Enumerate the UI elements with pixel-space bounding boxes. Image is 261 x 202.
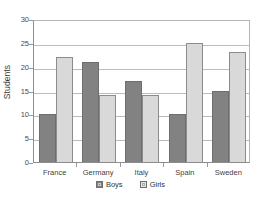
y-axis-tick-mark (29, 115, 33, 116)
y-axis-tick-label: 30 (12, 16, 29, 24)
legend-label: Boys (106, 181, 123, 189)
x-axis-tick-mark (163, 163, 164, 167)
bar-group (208, 21, 251, 162)
y-axis-tick-mark (29, 68, 33, 69)
bar-italy-boys (125, 81, 142, 162)
bar-chart: Students 051015202530 FranceGermanyItaly… (0, 0, 261, 202)
y-axis-tick-label: 15 (12, 88, 29, 96)
bar-france-boys (39, 114, 56, 162)
y-axis-title-text: Students (2, 64, 12, 98)
bar-group (34, 21, 77, 162)
plot-area (33, 20, 250, 163)
y-axis-tick-label: 10 (12, 112, 29, 120)
bar-group (77, 21, 120, 162)
x-axis-tick-label-germany: Germany (83, 169, 114, 177)
y-axis-tick-mark (29, 44, 33, 45)
legend-item-girls[interactable]: Girls (140, 181, 165, 189)
y-axis-tick-mark (29, 20, 33, 21)
y-axis-tick-label: 0 (12, 159, 29, 167)
x-axis-tick-mark (207, 163, 208, 167)
y-axis-tick-mark (29, 92, 33, 93)
dark-gray-swatch (96, 181, 103, 188)
light-gray-swatch (140, 181, 147, 188)
bar-italy-girls (142, 95, 159, 162)
bar-germany-boys (82, 62, 99, 162)
y-axis-tick-label: 20 (12, 64, 29, 72)
bar-spain-boys (169, 114, 186, 162)
y-axis-tick-labels: 051015202530 (12, 20, 29, 163)
y-axis-tick-mark (29, 139, 33, 140)
y-axis-tick-label: 5 (12, 135, 29, 143)
y-axis-tick-mark (29, 163, 33, 164)
x-axis-tick-mark (76, 163, 77, 167)
chart-legend: BoysGirls (0, 181, 261, 189)
bar-group (121, 21, 164, 162)
x-axis-tick-label-italy: Italy (135, 169, 149, 177)
legend-label: Girls (150, 181, 165, 189)
legend-item-boys[interactable]: Boys (96, 181, 123, 189)
bar-spain-girls (186, 43, 203, 162)
bars-layer (34, 21, 249, 162)
x-axis-tick-label-france: France (43, 169, 66, 177)
x-axis-tick-mark (120, 163, 121, 167)
bar-group (164, 21, 207, 162)
x-axis-tick-label-spain: Spain (175, 169, 194, 177)
bar-sweden-boys (212, 91, 229, 163)
bar-france-girls (56, 57, 73, 162)
bar-sweden-girls (229, 52, 246, 162)
bar-germany-girls (99, 95, 116, 162)
x-axis-tick-label-sweden: Sweden (215, 169, 242, 177)
y-axis-tick-label: 25 (12, 40, 29, 48)
